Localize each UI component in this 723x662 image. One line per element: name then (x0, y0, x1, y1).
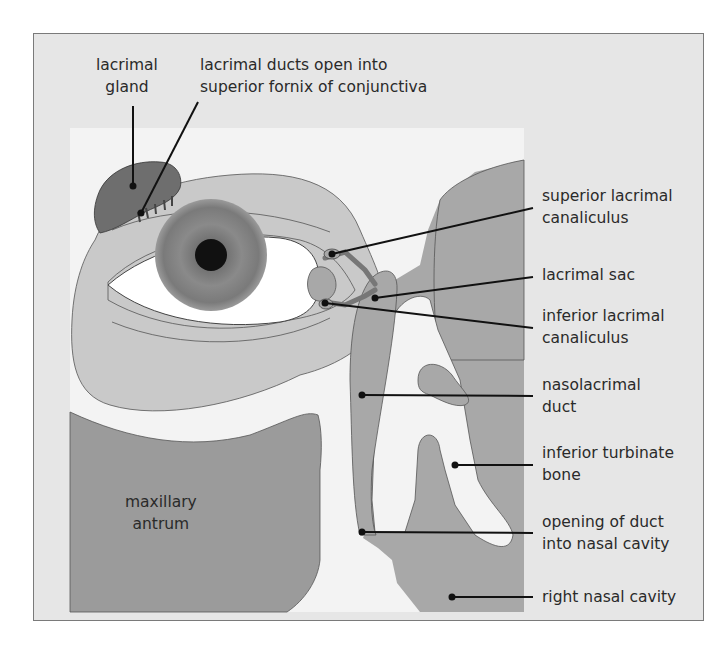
label-line: antrum (125, 513, 197, 535)
label-line: maxillary (125, 491, 197, 513)
label-line: duct (542, 396, 641, 418)
label-lacrimal-gland: lacrimal gland (96, 54, 158, 98)
label-lacrimal-ducts: lacrimal ducts open into superior fornix… (200, 54, 427, 98)
label-lacrimal-sac: lacrimal sac (542, 264, 635, 286)
label-line: lacrimal ducts open into (200, 54, 427, 76)
label-right-nasal-cavity: right nasal cavity (542, 586, 676, 608)
label-line: opening of duct (542, 511, 670, 533)
label-line: lacrimal sac (542, 264, 635, 286)
label-line: into nasal cavity (542, 533, 670, 555)
label-superior-canaliculus: superior lacrimal canaliculus (542, 185, 673, 229)
label-inferior-canaliculus: inferior lacrimal canaliculus (542, 305, 665, 349)
label-line: gland (96, 76, 158, 98)
label-line: nasolacrimal (542, 374, 641, 396)
label-line: bone (542, 464, 674, 486)
label-line: canaliculus (542, 207, 673, 229)
pupil (195, 239, 227, 271)
label-line: superior fornix of conjunctiva (200, 76, 427, 98)
label-line: inferior lacrimal (542, 305, 665, 327)
caruncle (308, 267, 337, 301)
label-nasolacrimal-duct: nasolacrimal duct (542, 374, 641, 418)
label-line: inferior turbinate (542, 442, 674, 464)
label-inferior-turbinate: inferior turbinate bone (542, 442, 674, 486)
label-line: canaliculus (542, 327, 665, 349)
label-line: right nasal cavity (542, 586, 676, 608)
label-opening-of-duct: opening of duct into nasal cavity (542, 511, 670, 555)
label-line: lacrimal (96, 54, 158, 76)
label-maxillary-antrum: maxillary antrum (125, 491, 197, 535)
label-line: superior lacrimal (542, 185, 673, 207)
